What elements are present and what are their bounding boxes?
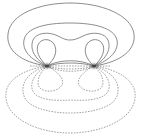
left-pole	[45, 64, 49, 67]
dashed-contour-outer	[6, 66, 135, 133]
field-line-diagram	[0, 0, 141, 136]
solid-contour-second	[24, 23, 118, 66]
solid-contour-right-loop	[85, 40, 103, 66]
lower-dashed-contours	[6, 66, 135, 133]
dashed-contour-inner-bridge-2	[47, 66, 94, 69]
right-pole	[92, 64, 96, 67]
upper-solid-contours	[8, 3, 134, 66]
dashed-contour-third	[32, 66, 109, 100]
solid-contour-left-loop	[37, 40, 55, 66]
